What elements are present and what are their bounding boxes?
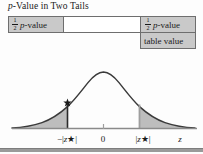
figure-title-rest: -Value in Two Tails: [13, 1, 89, 11]
cell-right-half-p-value: 1 2 p-value: [140, 16, 196, 33]
axis-label-z-star: |z★|: [123, 134, 163, 144]
axis-label-zero: 0: [89, 134, 117, 144]
cell-middle-empty: [63, 16, 141, 33]
figure-title: p-Value in Two Tails: [8, 1, 89, 11]
neg-zstar-prefix: −|: [57, 134, 64, 144]
p-value-two-tails-figure: p-Value in Two Tails 1 2 p-value 1 2 p-v…: [0, 0, 203, 154]
bottom-divider-rule: [0, 148, 203, 152]
axis-var-z: z: [178, 134, 182, 144]
zstar-suffix: ★|: [141, 134, 151, 144]
fraction-one-half-right: 1 2: [145, 17, 151, 31]
left-tail-shaded-region: [12, 107, 68, 128]
normal-curve-plot: [0, 44, 203, 136]
neg-zstar-suffix: ★|: [67, 134, 77, 144]
axis-label-neg-z-star: −|z★|: [46, 134, 88, 144]
cell-left-half-p-value: 1 2 p-value: [8, 16, 64, 33]
axis-label-z: z: [168, 134, 192, 144]
normal-distribution-curve: [12, 72, 195, 128]
cell-right-rest: -value: [158, 20, 181, 30]
cell-left-rest: -value: [25, 20, 48, 30]
right-tail-shaded-region: [140, 107, 196, 128]
fraction-denominator: 2: [14, 25, 17, 32]
fraction-denominator: 2: [147, 25, 150, 32]
fraction-one-half-left: 1 2: [12, 17, 18, 31]
